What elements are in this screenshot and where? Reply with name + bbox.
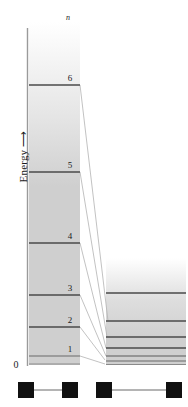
energy-level-diagram: Energy ⟶ 0 n bbox=[0, 0, 188, 407]
molecule-short-bond bbox=[18, 382, 78, 398]
right-well-band bbox=[106, 258, 186, 365]
transition-line bbox=[80, 327, 105, 360]
level-label-6: 6 bbox=[68, 73, 73, 83]
atom-square bbox=[166, 382, 182, 398]
level-label-1: 1 bbox=[68, 344, 73, 354]
level-label-2: 2 bbox=[68, 315, 73, 325]
transition-line bbox=[80, 85, 108, 321]
y-axis-label-text: Energy bbox=[17, 150, 29, 183]
y-axis-arrow: ⟶ bbox=[17, 131, 29, 147]
level-label-5: 5 bbox=[68, 160, 73, 170]
left-well-band bbox=[29, 22, 80, 365]
axis-zero-label: 0 bbox=[14, 359, 19, 370]
y-axis-label: Energy ⟶ bbox=[17, 112, 30, 202]
transition-line bbox=[80, 295, 106, 356]
diagram-canvas: 0 n 6 5 4 3 2 1 bbox=[0, 0, 188, 407]
quantum-number-symbol: n bbox=[66, 13, 70, 22]
atom-square bbox=[96, 382, 112, 398]
molecule-long-bond bbox=[96, 382, 182, 398]
transition-lines bbox=[80, 85, 108, 364]
atom-square bbox=[18, 382, 34, 398]
transition-line bbox=[80, 356, 105, 364]
level-label-4: 4 bbox=[68, 231, 73, 241]
atom-square bbox=[62, 382, 78, 398]
level-label-3: 3 bbox=[68, 283, 73, 293]
